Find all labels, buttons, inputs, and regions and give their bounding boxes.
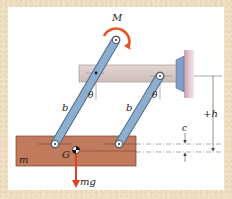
pivot-left-bottom <box>51 140 58 147</box>
label-mass: m <box>19 154 28 165</box>
label-link-left: b <box>62 102 68 113</box>
pivot-left-bar <box>95 72 98 75</box>
wall-bracket <box>176 56 184 92</box>
center-of-gravity-marker <box>72 146 79 153</box>
label-moment: M <box>111 12 123 23</box>
label-theta-left: θ <box>88 90 94 100</box>
diagram-frame: M b b θ θ m G mg +h c <box>0 0 232 199</box>
label-weight: mg <box>80 176 96 187</box>
label-c: c <box>182 123 187 133</box>
label-theta-right: θ <box>152 90 158 100</box>
label-link-right: b <box>126 102 132 113</box>
label-h: +h <box>203 108 218 119</box>
pivot-top <box>112 36 119 43</box>
pivot-right-bottom <box>115 140 122 147</box>
label-G: G <box>62 149 70 160</box>
wall <box>184 50 194 98</box>
pivot-right-top <box>156 72 163 79</box>
mechanism-diagram: M b b θ θ m G mg +h c <box>0 0 232 199</box>
